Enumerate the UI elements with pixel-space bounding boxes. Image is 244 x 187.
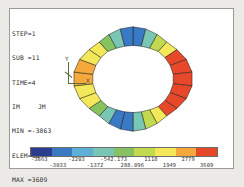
- legend-tick-labels: -3863-3033-2203-1372-542.173288.09611181…: [9, 156, 234, 170]
- triad-x-label: X: [86, 77, 90, 84]
- legend-band-8: [196, 148, 217, 156]
- legend-band-3: [93, 148, 114, 156]
- legend-band-7: [176, 148, 197, 156]
- legend-tick-8: 2779: [181, 156, 194, 162]
- info-components: IMJM: [12, 103, 51, 111]
- legend-band-5: [134, 148, 155, 156]
- info-sub: SUB =11: [12, 54, 51, 62]
- ring-element-group: [74, 27, 192, 131]
- legend-band-2: [72, 148, 93, 156]
- info-time: TIME=4: [12, 79, 51, 87]
- legend-band-4: [114, 148, 135, 156]
- legend-tick-9: 3609: [200, 162, 213, 168]
- legend-tick-2: -2203: [68, 156, 85, 162]
- legend-band-0: [31, 148, 52, 156]
- contour-legend: -3863-3033-2203-1372-542.173288.09611181…: [9, 143, 234, 169]
- info-max: MAX =3609: [12, 176, 51, 184]
- info-min: MIN =-3863: [12, 127, 51, 135]
- legend-band-6: [155, 148, 176, 156]
- info-step: STEP=1: [12, 30, 51, 38]
- legend-tick-4: -542.173: [100, 156, 127, 162]
- triad-y-label: Y: [65, 55, 69, 62]
- legend-tick-3: -1372: [87, 162, 104, 168]
- triad-x-axis: [68, 83, 86, 84]
- legend-tick-5: 288.096: [121, 162, 144, 168]
- legend-tick-1: -3033: [50, 162, 67, 168]
- legend-band-1: [52, 148, 73, 156]
- legend-tick-0: -3863: [31, 156, 48, 162]
- legend-tick-6: 1118: [144, 156, 157, 162]
- coordinate-triad-icon: Y X: [56, 58, 88, 88]
- info-component-j: JM: [20, 103, 46, 110]
- fea-plot-window: STEP=1 SUB =11 TIME=4 IMJM MIN =-3863 EL…: [0, 0, 244, 187]
- legend-tick-7: 1949: [163, 162, 176, 168]
- info-component-i: IM: [12, 103, 20, 110]
